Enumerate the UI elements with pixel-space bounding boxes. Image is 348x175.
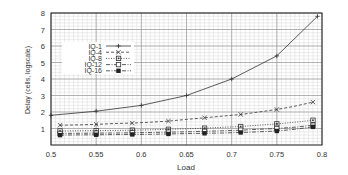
- svg-text:IQ-16: IQ-16: [84, 67, 102, 75]
- y-tick-label: 8: [41, 9, 45, 18]
- x-tick-label: 0.8: [317, 150, 327, 159]
- x-tick-label: 0.6: [136, 150, 146, 159]
- grid: [51, 13, 322, 145]
- x-tick-label: 0.65: [179, 150, 194, 159]
- x-tick-label: 0.75: [270, 150, 285, 159]
- y-tick-label: 5: [41, 59, 45, 68]
- x-tick-label: 0.55: [89, 150, 104, 159]
- y-tick-label: 6: [41, 42, 45, 51]
- y-axis-label: Delay (cells, logscale): [24, 46, 32, 114]
- y-tick-label: 4: [41, 75, 45, 84]
- y-tick-label: 2: [41, 108, 45, 117]
- x-axis-label: Load: [177, 163, 195, 172]
- y-axis-ticks: 12345678: [41, 9, 45, 134]
- y-tick-label: 3: [41, 92, 45, 101]
- legend: IQ-1IQ-4IQ-8IQ-12IQ-16: [62, 42, 134, 75]
- delay-vs-load-chart: 12345678 0.50.550.60.650.70.750.8 Load D…: [0, 0, 348, 175]
- y-tick-label: 7: [41, 26, 45, 35]
- x-tick-label: 0.7: [226, 150, 236, 159]
- x-tick-label: 0.5: [46, 150, 56, 159]
- y-tick-label: 1: [41, 125, 45, 134]
- x-axis-ticks: 0.50.550.60.650.70.750.8: [46, 150, 327, 159]
